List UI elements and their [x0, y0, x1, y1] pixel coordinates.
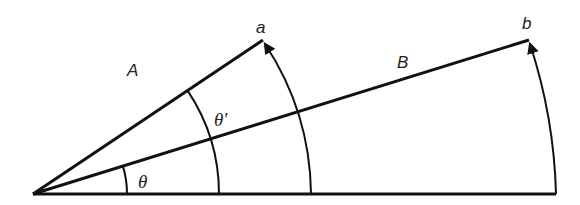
- label-point-a: a: [256, 18, 265, 37]
- label-vector-B: B: [397, 53, 408, 72]
- label-vector-A: A: [126, 61, 138, 80]
- line-to-a: [33, 40, 263, 194]
- label-point-b: b: [522, 14, 531, 33]
- line-to-b: [33, 40, 529, 194]
- rotation-arc-b: [530, 44, 556, 194]
- label-theta-prime: θ′: [214, 109, 228, 130]
- diagram-svg: a b A B θ′ θ: [0, 0, 580, 205]
- theta-arc: [123, 166, 127, 194]
- label-theta: θ: [138, 171, 147, 192]
- diagram-canvas: a b A B θ′ θ: [0, 0, 580, 205]
